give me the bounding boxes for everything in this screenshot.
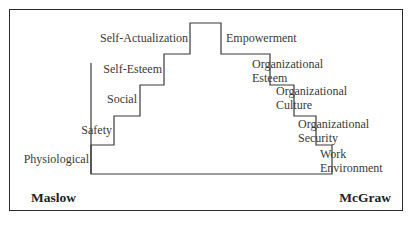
maslow-level-self-actualization: Self-Actualization [100, 31, 188, 45]
label-line-1: Organizational [276, 84, 347, 98]
label-line-1: Organizational [252, 57, 323, 71]
mcgraw-level-empowerment-label: Empowerment [226, 31, 297, 45]
maslow-title: Maslow [31, 190, 76, 206]
label-line-2: Security [298, 131, 369, 145]
maslow-level-physiological: Physiological [24, 152, 89, 166]
label-line-1: Organizational [298, 117, 369, 131]
mcgraw-level-empowerment: Empowerment [226, 31, 297, 45]
mcgraw-title: McGraw [339, 190, 391, 206]
maslow-level-social: Social [107, 92, 137, 106]
mcgraw-level-work-environment: Work Environment [320, 147, 383, 175]
maslow-level-self-esteem: Self-Esteem [103, 62, 162, 76]
label-line-2: Esteem [252, 71, 323, 85]
maslow-level-safety: Safety [81, 123, 112, 137]
mcgraw-level-organizational-esteem: Organizational Esteem [252, 57, 323, 85]
label-line-1: Work [320, 147, 383, 161]
mcgraw-level-organizational-culture: Organizational Culture [276, 84, 347, 112]
label-line-2: Culture [276, 98, 347, 112]
mcgraw-level-organizational-security: Organizational Security [298, 117, 369, 145]
label-line-2: Environment [320, 161, 383, 175]
